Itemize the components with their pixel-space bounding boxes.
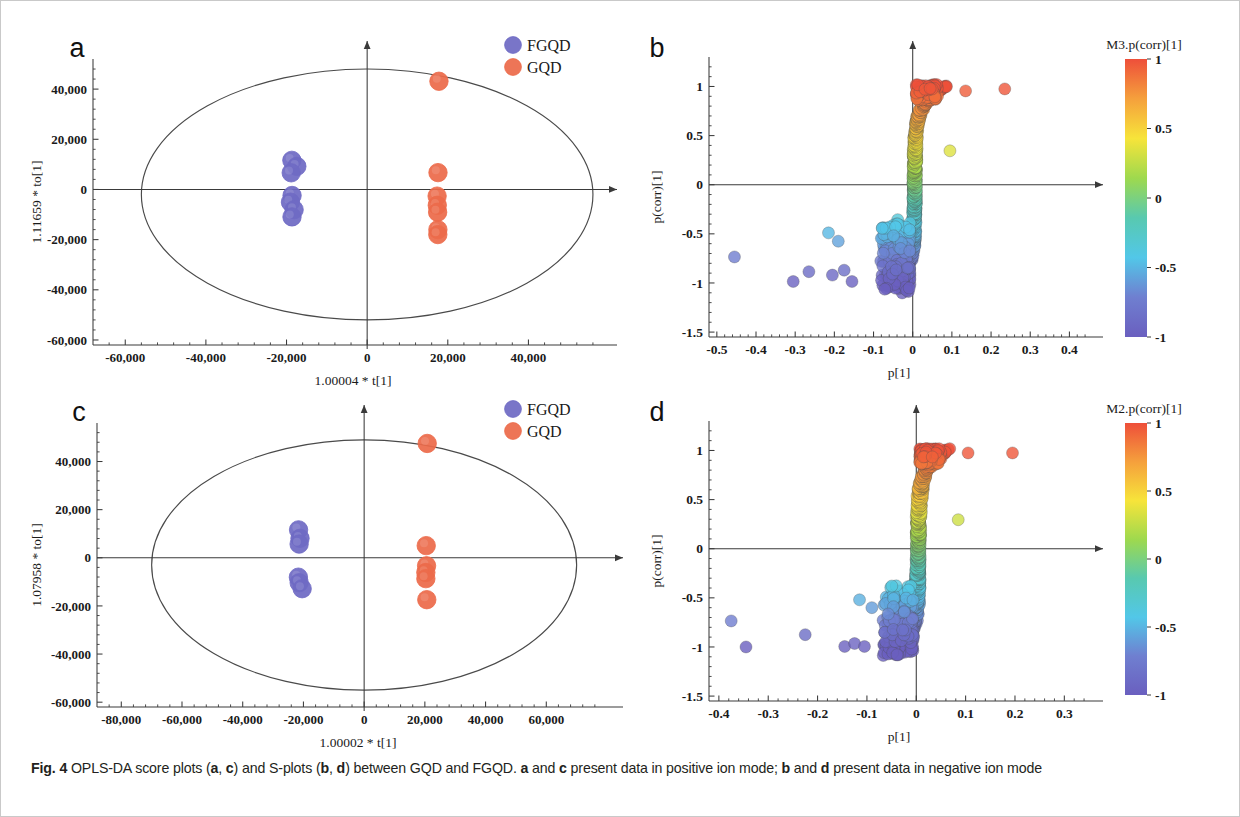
x-tick-label: -60,000 (162, 712, 202, 727)
legend-label-gqd: GQD (527, 423, 562, 440)
y-axis-label: 1.07958 * to[1] (29, 523, 44, 607)
data-point (903, 282, 915, 294)
x-tick-label: -0.1 (856, 706, 878, 721)
y-axis-label: p(corr)[1] (649, 534, 664, 587)
y-tick-label: 40,000 (55, 454, 91, 469)
x-tick-label: 0 (909, 342, 916, 357)
series-gqd (428, 72, 448, 244)
panel-a: a-60,000-40,000-20,000020,00040,00040,00… (15, 15, 655, 395)
y-tick-label: -1 (692, 276, 703, 291)
splot-points (725, 443, 1018, 662)
y-tick-label: 0.5 (686, 128, 703, 143)
y-tick-label: 0 (696, 541, 703, 556)
data-point (944, 145, 956, 157)
y-tick-label: 0 (85, 550, 92, 565)
y-tick-label: 0.5 (686, 492, 703, 507)
x-tick-label: -80,000 (101, 712, 141, 727)
panel-c-plot: c-80,000-60,000-40,000-20,000020,00040,0… (15, 387, 655, 755)
panel-letter-d: d (649, 397, 664, 427)
y-tick-label: 40,000 (51, 82, 87, 97)
y-tick-label: -60,000 (47, 333, 87, 348)
legend-marker-fgqd (505, 37, 522, 54)
y-tick-label: 20,000 (51, 132, 87, 147)
data-point (904, 224, 916, 236)
legend-label-fgqd: FGQD (527, 401, 571, 418)
panel-b-plot: b-0.5-0.4-0.3-0.2-0.100.10.20.30.410.50-… (637, 15, 1240, 395)
data-point (832, 235, 844, 247)
x-tick-label: -40,000 (223, 712, 263, 727)
data-point (887, 230, 899, 242)
colorbar: M2.p(corr)[1]10.50-0.5-1 (1106, 401, 1181, 703)
data-point (822, 227, 834, 239)
data-point (882, 608, 894, 620)
figure-label: Fig. 4 (31, 760, 67, 776)
y-tick-label: -0.5 (682, 226, 704, 241)
data-point (960, 85, 972, 97)
x-tick-label: 0.4 (1061, 342, 1078, 357)
series-fgqd (281, 151, 306, 226)
x-axis-arrow (1095, 545, 1103, 552)
colorbar-tick-label: -0.5 (1155, 260, 1177, 275)
x-tick-label: -0.3 (784, 342, 806, 357)
splot-points (728, 79, 1010, 299)
panel-letter-b: b (649, 33, 664, 63)
y-axis-arrow (364, 41, 371, 49)
data-point (787, 275, 799, 287)
data-point (866, 602, 878, 614)
x-axis-label: p[1] (888, 365, 911, 380)
x-tick-label: 0.3 (1056, 706, 1073, 721)
data-point-highlight (431, 206, 439, 214)
data-point (898, 606, 910, 618)
x-tick-label: 0.2 (983, 342, 1000, 357)
x-axis-label: 1.00002 * t[1] (320, 735, 397, 750)
data-point-highlight (433, 75, 441, 83)
data-point (907, 594, 919, 606)
x-tick-label: 0.1 (943, 342, 960, 357)
y-tick-label: 20,000 (55, 502, 91, 517)
x-tick-label: 0.1 (957, 706, 974, 721)
data-point (725, 615, 737, 627)
data-point (854, 594, 866, 606)
legend: FGQDGQD (505, 401, 571, 440)
data-point (926, 451, 938, 463)
x-axis-label: p[1] (888, 729, 911, 744)
y-axis-label: 1.11659 * to[1] (29, 160, 44, 243)
figure-caption-text: OPLS-DA score plots (a, c) and S-plots (… (67, 760, 1042, 776)
colorbar: M3.p(corr)[1]10.50-0.5-1 (1106, 37, 1181, 345)
figure-caption: Fig. 4 OPLS-DA score plots (a, c) and S-… (31, 758, 1216, 779)
colorbar-tick-label: -1 (1155, 688, 1166, 703)
data-point (728, 251, 740, 263)
data-point-highlight (432, 166, 440, 174)
x-tick-label: -60,000 (105, 350, 145, 365)
colorbar-gradient (1125, 423, 1147, 695)
data-point (876, 222, 888, 234)
data-point-highlight (285, 166, 293, 174)
data-point (799, 629, 811, 641)
data-point (904, 245, 916, 257)
y-tick-label: -1 (692, 640, 703, 655)
data-point-highlight (420, 572, 428, 580)
data-point-highlight (432, 228, 440, 236)
x-tick-label: -0.5 (706, 342, 728, 357)
data-point (846, 275, 858, 287)
x-tick-label: 0 (364, 350, 371, 365)
colorbar-tick-label: -1 (1155, 330, 1166, 345)
colorbar-tick-label: 0.5 (1155, 484, 1172, 499)
y-tick-label: -1.5 (682, 325, 704, 340)
y-tick-label: -0.5 (682, 590, 704, 605)
data-point (826, 269, 838, 281)
x-axis-label: 1.00004 * t[1] (315, 373, 392, 388)
x-tick-label: -0.2 (807, 706, 829, 721)
y-tick-label: -60,000 (51, 695, 91, 710)
x-tick-label: -20,000 (266, 350, 306, 365)
x-tick-label: 20,000 (407, 712, 443, 727)
colorbar-title: M3.p(corr)[1] (1106, 37, 1181, 52)
data-point (999, 83, 1011, 95)
data-point (902, 262, 914, 274)
x-tick-label: -0.3 (758, 706, 780, 721)
x-tick-label: 40,000 (511, 350, 547, 365)
data-point-highlight (420, 539, 428, 547)
colorbar-tick-label: 1 (1155, 416, 1162, 431)
y-tick-label: 0 (696, 177, 703, 192)
y-tick-label: 1 (696, 79, 703, 94)
